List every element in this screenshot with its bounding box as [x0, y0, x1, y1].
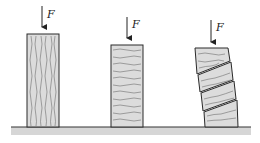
ground: [11, 127, 251, 135]
wood-compression-diagram: F F: [0, 0, 260, 143]
force-arrow-3: F: [211, 20, 224, 42]
force-label: F: [46, 8, 55, 21]
force-arrow-1: F: [42, 6, 55, 27]
specimen-parallel-grain: [27, 34, 59, 127]
force-arrow-2: F: [127, 17, 140, 38]
force-label: F: [131, 18, 140, 31]
force-label: F: [215, 21, 224, 34]
specimen-perpendicular-grain: [111, 45, 143, 127]
